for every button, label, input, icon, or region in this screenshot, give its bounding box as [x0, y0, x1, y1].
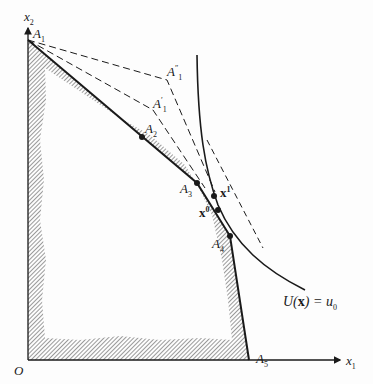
label-x0: x0 — [199, 206, 210, 219]
label-A1pp: A″1 — [167, 65, 182, 82]
label-A3: A3 — [180, 182, 192, 199]
curve-label: U(x) = u0 — [283, 295, 337, 312]
label-A1p: A′1 — [153, 97, 167, 114]
indifference-curve — [197, 55, 305, 290]
label-A1: A1 — [33, 27, 45, 44]
point-x1 — [211, 193, 217, 199]
point-A3 — [194, 180, 200, 186]
point-x0 — [215, 207, 221, 213]
label-x1: x1 — [220, 186, 231, 199]
point-A4 — [227, 233, 233, 239]
origin-label: O — [14, 364, 23, 377]
label-A5: A5 — [256, 352, 268, 369]
label-A4: A4 — [212, 237, 224, 254]
x1-axis-label: x1 — [346, 354, 356, 371]
utility-frontier-diagram: x2 x1 O A1 A″1 A′1 A2 A3 x1 x0 A4 A5 U(x… — [0, 0, 373, 384]
label-A2: A2 — [145, 122, 157, 139]
x2-axis-label: x2 — [24, 10, 34, 27]
